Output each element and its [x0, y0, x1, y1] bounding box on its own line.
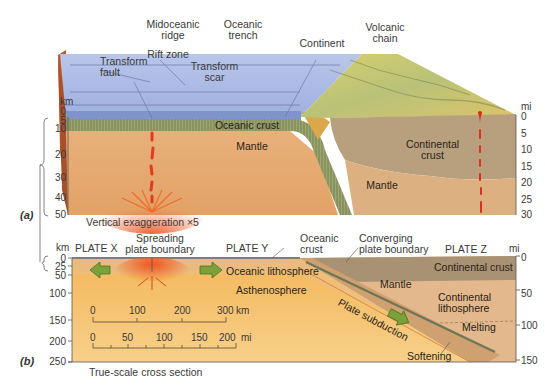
label-oceanic-crust-a: Oceanic crust — [212, 120, 282, 131]
axis-b-right-tick: 0 — [521, 253, 527, 263]
scale-mi-tick: 200 — [219, 333, 236, 343]
axis-b-left-unit: km — [56, 243, 69, 253]
label-line: ridge — [138, 30, 208, 41]
label-line: plate boundary — [359, 244, 428, 255]
label-plate-z: PLATE Z — [445, 244, 487, 255]
caption-true-scale: True-scale cross section — [89, 367, 202, 378]
label-line: scar — [187, 72, 242, 83]
label-asthenosphere: Asthenosphere — [236, 285, 307, 296]
label-continental-lithosphere: Continental lithosphere — [438, 292, 491, 314]
axis-a-left-tick: 10 — [44, 124, 66, 134]
label-continental-crust-a: Continental crust — [400, 139, 465, 161]
axis-b-left-tick: 250 — [44, 357, 66, 367]
label-transform-scar: Transform scar — [187, 61, 242, 83]
label-volcanic-chain: Volcanic chain — [360, 22, 410, 44]
label-plate-x: PLATE X — [75, 243, 117, 254]
axis-a-left-tick: 20 — [44, 150, 66, 160]
scale-mi-unit: mi — [241, 333, 252, 343]
axis-a-left-tick: 50 — [44, 210, 66, 220]
axis-b-left-tick: 100 — [44, 289, 66, 299]
label-rift-zone: Rift zone — [143, 49, 193, 60]
scale-mi-tick: 100 — [156, 333, 173, 343]
axis-b-right-tick: 50 — [521, 289, 532, 299]
label-plate-y: PLATE Y — [226, 243, 268, 254]
axis-a-right-tick: 25 — [521, 195, 532, 205]
axis-b-left-tick: 50 — [44, 271, 66, 281]
label-line: crust — [300, 244, 339, 255]
scale-km-unit: km — [236, 306, 249, 316]
axis-b-right-unit: mi — [509, 244, 520, 254]
axis-b-right-tick: 150 — [521, 356, 538, 366]
label-softening: Softening — [407, 351, 451, 362]
label-midoceanic-ridge: Midoceanic ridge — [138, 19, 208, 41]
axis-b-left-tick: 150 — [44, 316, 66, 326]
axis-a-right-tick: 10 — [521, 145, 532, 155]
axis-a-right-tick: 0 — [521, 112, 527, 122]
axis-b-left-tick: 200 — [44, 337, 66, 347]
label-continental-crust-b: Continental crust — [434, 262, 513, 273]
axis-a-left-tick: 40 — [44, 193, 66, 203]
label-line: trench — [218, 30, 268, 41]
label-line: fault — [100, 67, 147, 78]
label-oceanic-crust-b: Oceanic crust — [300, 233, 339, 255]
label-continent: Continent — [292, 38, 352, 49]
label-mantle-b: Mantle — [380, 279, 412, 290]
label-spreading-boundary: Spreading plate boundary — [120, 233, 200, 255]
label-line: chain — [360, 33, 410, 44]
label-mantle-a-left: Mantle — [232, 141, 272, 152]
scale-km-tick: 0 — [90, 306, 96, 316]
label-oceanic-lithosphere: Oceanic lithosphere — [226, 266, 319, 277]
label-mantle-a-right: Mantle — [362, 180, 402, 191]
scale-mi-tick: 50 — [122, 333, 133, 343]
scale-km-tick: 100 — [129, 306, 146, 316]
label-line: crust — [400, 150, 465, 161]
label-oceanic-trench: Oceanic trench — [218, 19, 268, 41]
axis-b-right-tick: 100 — [521, 321, 538, 331]
axis-a-right-tick: 20 — [521, 178, 532, 188]
axis-a-right-tick: 5 — [521, 129, 527, 139]
scale-km-tick: 300 — [217, 306, 234, 316]
scale-mi-tick: 150 — [191, 333, 208, 343]
label-line: plate boundary — [120, 244, 200, 255]
panel-b-label: (b) — [20, 355, 34, 367]
axis-a-left-tick: 30 — [44, 173, 66, 183]
axis-a-right-tick: 30 — [521, 210, 532, 220]
label-vertical-exaggeration: Vertical exaggeration ×5 — [86, 217, 199, 228]
axis-a-right-tick: 15 — [521, 162, 532, 172]
label-transform-fault: Transform fault — [100, 56, 147, 78]
scale-mi-tick: 0 — [90, 333, 96, 343]
scale-km-tick: 200 — [174, 306, 191, 316]
label-line: lithosphere — [438, 303, 491, 314]
label-converging-boundary: Converging plate boundary — [359, 233, 428, 255]
label-melting: Melting — [462, 322, 496, 333]
panel-a-label: (a) — [20, 209, 33, 221]
